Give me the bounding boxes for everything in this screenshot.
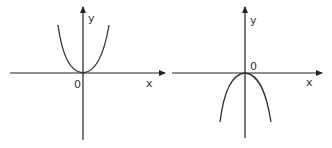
y-axis-label: y — [250, 14, 257, 27]
x-axis-label: x — [306, 76, 313, 89]
y-axis-label: y — [88, 12, 95, 25]
downward-parabola-graph: y x 0 — [172, 7, 322, 138]
x-axis-label: x — [146, 77, 153, 90]
upward-parabola-graph: y x 0 — [10, 7, 165, 140]
origin-label: 0 — [74, 78, 81, 91]
diagram-canvas: y x 0 y x 0 — [0, 0, 332, 148]
origin-label: 0 — [250, 60, 257, 73]
